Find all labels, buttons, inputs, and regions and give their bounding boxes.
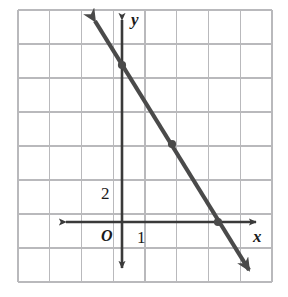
coordinate-graph-figure: y x 2 1 O: [0, 0, 288, 297]
x-tick-label-1: 1: [137, 229, 146, 246]
x-axis-label: x: [253, 228, 262, 245]
y-axis-label: y: [131, 11, 139, 28]
graph-canvas: [0, 0, 288, 297]
y-tick-label-2: 2: [101, 185, 110, 202]
point-marker-midpoint: [168, 140, 176, 148]
point-marker-x-intercept: [214, 218, 222, 226]
origin-label: O: [101, 228, 113, 244]
canvas-background: [0, 0, 288, 297]
point-marker-y-intercept: [118, 61, 126, 69]
